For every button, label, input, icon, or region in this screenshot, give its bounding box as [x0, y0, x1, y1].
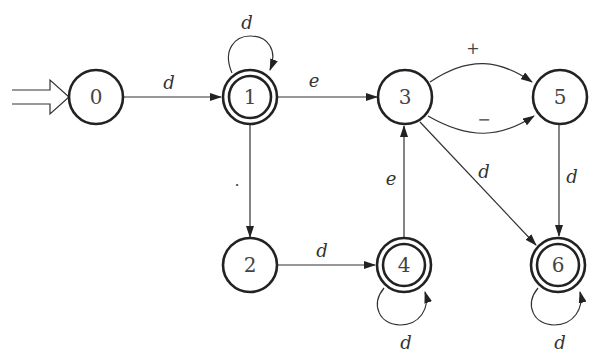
edge-1-1-loop — [228, 36, 272, 73]
start-arrow-icon — [12, 80, 69, 114]
edge-3-6 — [420, 122, 536, 245]
edge-label-3-5-plus: + — [466, 39, 479, 58]
state-6-accepting: 6 — [531, 238, 585, 292]
automaton-diagram: d d e . d d e + − d d d 0 1 2 3 4 5 6 — [0, 0, 602, 360]
edge-label-1-3: e — [309, 70, 320, 91]
svg-text:4: 4 — [398, 253, 411, 277]
svg-text:5: 5 — [554, 85, 567, 109]
edge-label-3-6: d — [478, 161, 490, 182]
state-1-accepting: 1 — [223, 70, 277, 124]
edge-label-6-6: d — [554, 332, 566, 353]
state-4-accepting: 4 — [377, 238, 431, 292]
edge-label-1-2: . — [234, 171, 239, 190]
svg-text:3: 3 — [399, 85, 412, 109]
edge-6-6-loop — [531, 288, 580, 325]
edge-3-5-plus — [430, 64, 532, 82]
edge-label-4-3: e — [386, 168, 397, 189]
state-3: 3 — [378, 70, 432, 124]
edge-label-1-1: d — [241, 12, 253, 33]
svg-text:0: 0 — [90, 85, 103, 109]
state-2: 2 — [223, 238, 277, 292]
edge-label-5-6: d — [566, 166, 578, 187]
svg-text:2: 2 — [244, 253, 257, 277]
edge-label-0-1: d — [163, 72, 175, 93]
edge-label-2-4: d — [316, 240, 328, 261]
edge-label-4-4: d — [400, 332, 412, 353]
state-5: 5 — [533, 70, 587, 124]
edge-4-4-loop — [377, 288, 426, 325]
edge-label-3-5-minus: − — [477, 110, 490, 129]
svg-text:6: 6 — [552, 253, 565, 277]
state-0: 0 — [69, 70, 123, 124]
svg-text:1: 1 — [244, 85, 257, 109]
